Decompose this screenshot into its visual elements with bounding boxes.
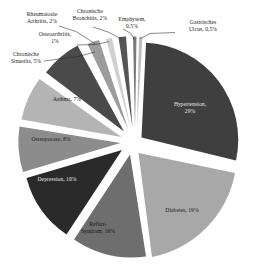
- callout-label-chronische-sinusitis-line2: Sinusitis, 5%: [2, 58, 50, 65]
- callout-label-gastrisches-ulcus: Gastrisches Ulcus, 0,5%: [176, 19, 230, 32]
- callout-label-rheumatoide-arthritis: Rheumatoide Arthritis, 2%: [14, 11, 70, 24]
- pie-slice-gastrisches-ulcus[interactable]: [137, 37, 143, 128]
- callout-label-gastrisches-ulcus-line1: Gastrisches: [190, 19, 216, 25]
- callout-label-chronische-bronchitis-line2: Bronchitis, 2%: [63, 15, 117, 22]
- slice-label-diabetes: Diabetes, 19%: [158, 207, 206, 214]
- callout-label-osteoarthritis-line2: 1%: [31, 38, 79, 45]
- slice-label-diabetes-line1: Diabetes, 19%: [165, 207, 198, 213]
- callout-label-chronische-bronchitis-line1: Chronische: [77, 8, 103, 14]
- slice-label-asthma: Asthma, 7%: [44, 96, 90, 103]
- callout-label-osteoarthritis-line1: Osteoarthritis,: [39, 31, 72, 37]
- slice-label-depression: Depression, 10%: [28, 176, 86, 183]
- callout-label-chronische-bronchitis: Chronische Bronchitis, 2%: [63, 8, 117, 21]
- slice-label-reflux-syndrom-line1: Reflux-: [89, 221, 106, 227]
- slice-label-depression-line1: Depression, 10%: [38, 176, 77, 182]
- slice-label-hypertension: Hypertension, 29%: [164, 101, 216, 114]
- callout-label-emphysem-line2: 0,5%: [112, 23, 152, 30]
- callout-label-rheumatoide-arthritis-line2: Arthritis, 2%: [14, 18, 70, 25]
- callout-label-osteoarthritis: Osteoarthritis, 1%: [31, 31, 79, 44]
- callout-label-emphysem-line1: Emphysem,: [118, 16, 145, 22]
- callout-label-rheumatoide-arthritis-line1: Rheumatoide: [27, 11, 57, 17]
- callout-label-chronische-sinusitis-line1: Chronische: [13, 51, 39, 57]
- slice-label-hypertension-line2: 29%: [164, 108, 216, 115]
- callout-label-chronische-sinusitis: Chronische Sinusitis, 5%: [2, 51, 50, 64]
- callout-label-gastrisches-ulcus-line2: Ulcus, 0,5%: [176, 26, 230, 33]
- pie-chart-figure: Rheumatoide Arthritis, 2% Chronische Bro…: [0, 0, 253, 278]
- slice-label-reflux-syndrom: Reflux- Syndrom, 16%: [74, 221, 122, 234]
- pie-slice-diabetes[interactable]: [139, 153, 236, 257]
- slice-label-hypertension-line1: Hypertension,: [174, 101, 206, 107]
- slice-label-asthma-line1: Asthma, 7%: [53, 96, 81, 102]
- pie-slice-emphysem[interactable]: [133, 37, 137, 128]
- slice-label-osteoporose: Osteoporose, 8%: [22, 136, 80, 143]
- callout-label-emphysem: Emphysem, 0,5%: [112, 16, 152, 29]
- slice-label-reflux-syndrom-line2: Syndrom, 16%: [74, 228, 122, 235]
- slice-label-osteoporose-line1: Osteoporose, 8%: [32, 136, 71, 142]
- leader-line-gastrisches-ulcus: [141, 33, 176, 39]
